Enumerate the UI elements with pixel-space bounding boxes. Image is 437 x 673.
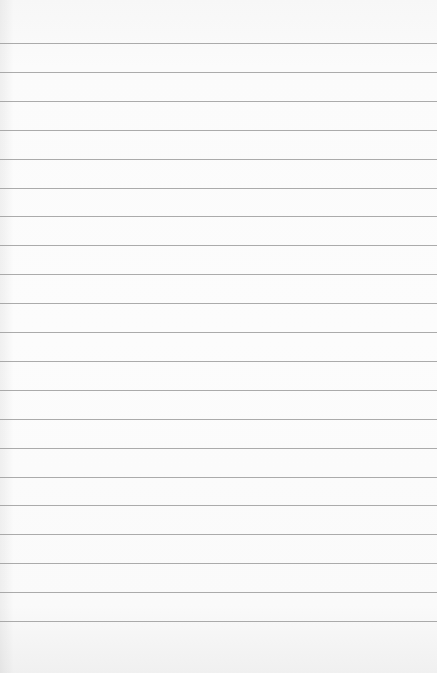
ruled-line [0,101,437,102]
ruled-line [0,390,437,391]
lined-paper-sheet [0,0,437,673]
ruled-line [0,563,437,564]
ruled-line [0,419,437,420]
ruled-line [0,130,437,131]
ruled-line [0,621,437,622]
ruled-line [0,332,437,333]
ruled-line [0,245,437,246]
ruled-line [0,274,437,275]
ruled-line [0,361,437,362]
ruled-line [0,477,437,478]
ruled-line [0,505,437,506]
ruled-line [0,534,437,535]
ruled-line [0,592,437,593]
ruled-line [0,448,437,449]
ruled-line [0,72,437,73]
ruled-line [0,216,437,217]
ruled-line [0,303,437,304]
ruled-line [0,43,437,44]
ruled-line [0,188,437,189]
ruled-line [0,159,437,160]
